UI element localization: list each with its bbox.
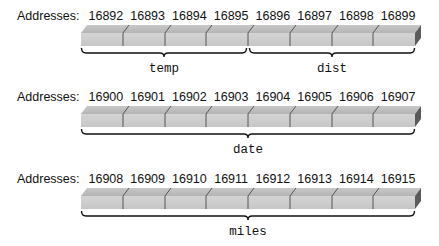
memory-row: Addresses:169001690116902169031690416905…: [0, 81, 439, 163]
variable-name: dist: [249, 62, 415, 76]
addresses-label: Addresses:: [17, 90, 80, 104]
address-value: 16915: [376, 172, 420, 186]
address-value: 16899: [376, 9, 420, 23]
byte-divider: [122, 106, 130, 127]
byte-divider: [372, 25, 380, 46]
address-value: 16900: [84, 90, 128, 104]
brace-icon: [81, 211, 415, 221]
byte-divider: [122, 25, 130, 46]
byte-divider: [289, 106, 297, 127]
byte-divider: [164, 106, 172, 127]
byte-divider: [247, 188, 255, 209]
variable-name: temp: [81, 62, 247, 76]
brace-icon: [249, 48, 415, 58]
byte-divider: [372, 106, 380, 127]
address-value: 16914: [334, 172, 378, 186]
address-value: 16895: [209, 9, 253, 23]
address-value: 16911: [209, 172, 253, 186]
address-value: 16893: [126, 9, 170, 23]
address-value: 16904: [251, 90, 295, 104]
address-value: 16892: [84, 9, 128, 23]
brace-icon: [81, 48, 247, 58]
variable-name: date: [81, 143, 415, 157]
byte-divider: [164, 188, 172, 209]
address-value: 16913: [293, 172, 337, 186]
address-value: 16902: [167, 90, 211, 104]
byte-divider: [247, 25, 255, 46]
addresses-label: Addresses:: [17, 172, 80, 186]
address-value: 16901: [126, 90, 170, 104]
variable-name: miles: [81, 225, 415, 239]
address-value: 16894: [167, 9, 211, 23]
address-value: 16896: [251, 9, 295, 23]
byte-divider: [205, 106, 213, 127]
byte-divider: [289, 188, 297, 209]
byte-divider: [372, 188, 380, 209]
address-value: 16908: [84, 172, 128, 186]
address-value: 16909: [126, 172, 170, 186]
address-value: 16906: [334, 90, 378, 104]
byte-divider: [331, 106, 339, 127]
byte-divider: [205, 188, 213, 209]
address-value: 16903: [209, 90, 253, 104]
byte-divider: [247, 106, 255, 127]
addresses-label: Addresses:: [17, 9, 80, 23]
byte-divider: [164, 25, 172, 46]
address-value: 16912: [251, 172, 295, 186]
byte-divider: [331, 188, 339, 209]
brace-icon: [81, 129, 415, 139]
byte-divider: [205, 25, 213, 46]
address-value: 16898: [334, 9, 378, 23]
address-value: 16910: [167, 172, 211, 186]
byte-divider: [289, 25, 297, 46]
byte-divider: [122, 188, 130, 209]
memory-row: Addresses:169081690916910169111691216913…: [0, 163, 439, 245]
address-value: 16897: [293, 9, 337, 23]
address-value: 16907: [376, 90, 420, 104]
memory-row: Addresses:168921689316894168951689616897…: [0, 0, 439, 82]
byte-divider: [331, 25, 339, 46]
address-value: 16905: [293, 90, 337, 104]
